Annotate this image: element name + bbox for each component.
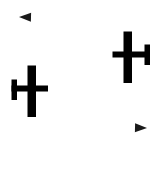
- airplane-lower-left-tailfin: [12, 80, 18, 101]
- aircraft-path-diagram: [0, 0, 165, 177]
- diagram-canvas: [0, 0, 165, 177]
- airplane-upper-right-fuselage: [124, 32, 133, 84]
- airplane-upper-right-tailfin: [145, 45, 151, 66]
- airplane-lower-left-fuselage: [28, 66, 37, 118]
